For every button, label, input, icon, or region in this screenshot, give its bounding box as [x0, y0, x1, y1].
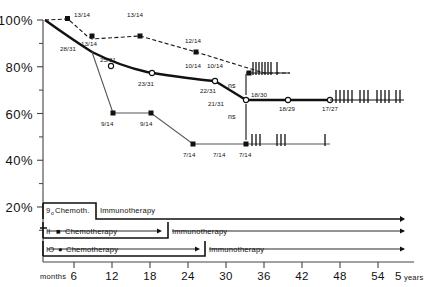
point-label: 25/31 [100, 56, 116, 63]
point-label: 13/14 [127, 11, 143, 18]
data-point-marker [285, 97, 290, 102]
point-label: 13/14 [74, 11, 90, 18]
arrow-head-icon [400, 229, 405, 234]
legend-group-sub-9o: o [51, 210, 54, 216]
point-label: 12/14 [185, 37, 201, 44]
data-point-marker [65, 16, 70, 21]
y-tick-label-80: 80% [5, 60, 33, 75]
arrow-head-icon [157, 229, 162, 234]
legend-phase1-9o: Chemoth. [55, 206, 90, 215]
data-point-marker [244, 142, 249, 147]
point-label: 21/31 [208, 100, 224, 107]
data-point-marker [149, 70, 154, 75]
x-tick-label-48: 48 [333, 270, 347, 282]
arrow-head-icon [195, 247, 200, 252]
x-axis-end-label-years: years [404, 273, 423, 282]
x-tick-label-30: 30 [219, 270, 233, 282]
x-tick-label-6: 6 [71, 270, 78, 282]
data-point-marker [108, 63, 113, 68]
data-point-marker [149, 111, 154, 116]
treatment-timeline-legend: 9 o Chemoth. Immunotherapy II ■ Chemothe… [40, 203, 405, 256]
arrow-head-icon [400, 247, 405, 252]
legend-phase1-IO: Chemotherapy [66, 245, 118, 254]
point-label: 7/14 [213, 151, 226, 158]
x-tick-label-42: 42 [295, 270, 309, 282]
legend-group-label-9o: 9 [46, 206, 50, 215]
x-tick-label-24: 24 [181, 270, 195, 282]
x-axis-end-label-5: 5 [395, 270, 402, 282]
ns-label-upper: ns [228, 82, 236, 89]
legend-row-9o[interactable]: 9 o Chemoth. Immunotherapy [43, 203, 405, 222]
point-label: 9/14 [140, 120, 153, 127]
x-tick-label-18: 18 [143, 270, 157, 282]
legend-group-label-II: II [46, 227, 51, 236]
data-point-marker [111, 111, 116, 116]
legend-phase2-II: Immunotherapy [172, 227, 227, 236]
legend-marker-IO: ● [58, 245, 63, 254]
y-tick-label-100: 100% [0, 13, 33, 28]
overall-survival-curve [45, 20, 330, 100]
survival-chart-figure: 100% 80% 60% 40% 20% months 6 12 18 24 3… [0, 0, 426, 287]
series-overall-solid [45, 20, 404, 103]
x-tick-label-36: 36 [257, 270, 271, 282]
legend-phase2-IO: Immunotherapy [209, 245, 264, 254]
point-label: 17/27 [322, 105, 338, 112]
data-point-marker [138, 34, 143, 39]
legend-row-II[interactable]: II ■ Chemotherapy Immunotherapy [40, 222, 405, 238]
y-tick-label-40: 40% [5, 153, 33, 168]
legend-group-label-IO: IO [46, 245, 54, 254]
arrow-head-icon [400, 216, 405, 222]
censor-tick-group-overall [336, 90, 400, 103]
point-label: 23/31 [138, 80, 154, 87]
chart-canvas: 100% 80% 60% 40% 20% months 6 12 18 24 3… [0, 0, 426, 287]
point-label: 9/14 [101, 120, 114, 127]
data-point-marker [90, 34, 95, 39]
point-label: 7/14 [183, 151, 196, 158]
x-tick-label-12: 12 [105, 270, 119, 282]
point-label: 18/29 [279, 105, 295, 112]
legend-phase1-II: Chemotherapy [65, 227, 117, 236]
y-axis [37, 20, 43, 262]
data-point-marker [191, 142, 196, 147]
x-axis-start-label: months [40, 272, 66, 281]
x-axis [43, 262, 414, 268]
legend-marker-II: ■ [56, 227, 61, 236]
y-tick-label-20: 20% [5, 200, 33, 215]
point-label: 10/14 [185, 62, 201, 69]
data-point-marker [212, 78, 217, 83]
data-point-marker [243, 97, 248, 102]
legend-phase2-9o: Immunotherapy [100, 206, 155, 215]
y-tick-label-60: 60% [5, 107, 33, 122]
x-tick-label-54: 54 [371, 270, 385, 282]
data-point-marker [194, 50, 199, 55]
point-label: 28/31 [60, 45, 76, 52]
point-label: 18/30 [251, 91, 267, 98]
point-label: 22/31 [200, 87, 216, 94]
ns-label-lower: ns [228, 113, 236, 120]
legend-row-IO[interactable]: IO ● Chemotherapy Immunotherapy [43, 241, 405, 256]
point-label: 10/14 [207, 62, 223, 69]
significance-annotations: ns ns [228, 74, 246, 140]
point-label: 7/14 [239, 151, 252, 158]
